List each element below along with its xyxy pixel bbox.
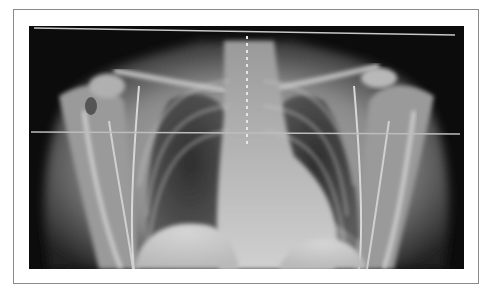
chest-xray-image <box>29 26 464 269</box>
right-humeral-head <box>89 74 125 98</box>
xray-graphic <box>29 26 464 269</box>
right-glenoid-shadow <box>85 97 97 115</box>
upper-reference-line <box>34 28 455 35</box>
